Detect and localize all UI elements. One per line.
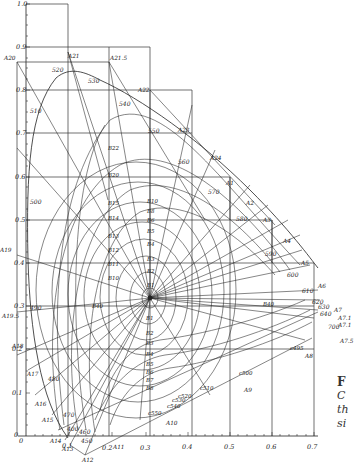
- sat-B6-lower: B6: [145, 369, 154, 375]
- hue-A13: A13: [61, 446, 74, 452]
- hue-A9: A9: [243, 387, 252, 393]
- sat-B22: B22: [107, 145, 120, 151]
- sat-B12: B12: [107, 247, 120, 253]
- wavelength-580: 580: [236, 215, 248, 222]
- y-tick-0.5: 0.5: [15, 216, 25, 224]
- wavelength-520: 520: [52, 66, 64, 73]
- wavelength-540: 540: [119, 100, 131, 107]
- hue-A7: A7: [333, 307, 342, 313]
- sat-B40: B40: [91, 303, 104, 309]
- sat-B20: B20: [107, 172, 120, 178]
- sat-B7-lower: B7: [145, 377, 154, 383]
- hue-A17: A17: [26, 371, 39, 377]
- sat-B4-right: B4: [146, 241, 155, 247]
- hue-A5: A5: [300, 260, 309, 266]
- wavelength-600: 600: [287, 271, 299, 278]
- y-tick-0.6: 0.6: [15, 173, 25, 181]
- caption-fragment-2: C: [337, 389, 357, 403]
- c495-label: c495: [290, 345, 304, 351]
- hue-A7.1: A7.1: [337, 315, 351, 321]
- wavelength-500: 500: [30, 198, 42, 205]
- wavelength-400: 400: [66, 425, 79, 432]
- wavelength-460: 460: [78, 428, 91, 435]
- wavelength-560: 560: [178, 158, 190, 165]
- wavelength-490: 490: [29, 304, 42, 311]
- sat-B40-right: B40: [262, 301, 275, 307]
- saturation-labels: B22 B20 B15 B14 B13 B12 B11 B10 B10 B8 B…: [91, 145, 275, 391]
- wavelength-530: 530: [88, 77, 100, 84]
- y-tick-0.3: 0.3: [14, 302, 24, 310]
- x-tick-0: 0: [19, 437, 23, 445]
- hue-A4: A4: [282, 238, 291, 244]
- y-tick-0.4: 0.4: [14, 259, 24, 267]
- hue-A24: A24: [209, 155, 222, 161]
- caption-fragment-3: th: [337, 403, 357, 417]
- sat-B5-lower: B5: [145, 361, 154, 367]
- wavelength-labels: 520 530 540 550 560 570 580 590 600 610 …: [29, 66, 340, 444]
- sat-B5-right: B5: [146, 228, 155, 234]
- sat-B3-lower: B3: [145, 340, 154, 346]
- wavelength-640: 640: [320, 310, 332, 317]
- hue-A23: A23: [177, 127, 190, 133]
- hue-A22: A22: [137, 87, 150, 93]
- hue-A14: A14: [49, 438, 62, 444]
- wavelength-570: 570: [208, 188, 220, 195]
- x-tick-0.5: 0.5: [224, 443, 234, 451]
- chromaticity-diagram: 1.0 0.9 0.8 0.7 0.6 0.5 0.4 0.3 0.2 0.1 …: [0, 0, 357, 462]
- hue-A15: A15: [41, 417, 54, 423]
- sat-B3-right: B3: [146, 256, 155, 262]
- y-tick-0: 0: [14, 431, 18, 439]
- hue-A1: A1: [225, 180, 234, 186]
- x-tick-0.6: 0.6: [266, 443, 276, 451]
- x-tick-0.2: 0.2: [102, 444, 112, 452]
- hue-A20: A20: [3, 55, 16, 61]
- c540-label: c540: [167, 403, 181, 409]
- sat-B2-lower: B2: [145, 330, 154, 336]
- white-point-marker: [148, 296, 153, 301]
- sat-B8-lower: B8: [145, 385, 154, 391]
- sat-B14: B14: [107, 215, 120, 221]
- hue-A10: A10: [165, 420, 178, 426]
- sat-B1-right: B1: [146, 282, 155, 288]
- y-tick-1.0: 1.0: [17, 0, 27, 8]
- y-tick-0.9: 0.9: [16, 43, 26, 51]
- wavelength-610: 610: [302, 287, 314, 294]
- y-axis-labels: 1.0 0.9 0.8 0.7 0.6 0.5 0.4 0.3 0.2 0.1 …: [12, 0, 27, 439]
- hue-A21: A21: [67, 53, 80, 59]
- hue-A19.5: A19.5: [1, 313, 19, 319]
- figure-caption: F C th si: [337, 375, 357, 431]
- c510-label: c510: [200, 385, 214, 391]
- sat-B4-lower: B4: [145, 351, 154, 357]
- sat-B10: B10: [107, 275, 120, 281]
- hue-A11: A11: [112, 444, 125, 450]
- c500-label: c500: [239, 370, 253, 376]
- wavelength-480: 480: [47, 375, 60, 382]
- y-tick-0.1: 0.1: [12, 389, 22, 397]
- wavelength-550: 550: [148, 127, 160, 134]
- x-tick-0.7: 0.7: [307, 443, 318, 451]
- wavelength-450: 450: [80, 437, 93, 444]
- hue-A3: A3: [262, 217, 271, 223]
- y-tick-0.7: 0.7: [16, 129, 27, 137]
- hue-A8: A8: [304, 353, 313, 359]
- sat-B2-right: B2: [146, 268, 155, 274]
- hue-A7.1b: A7.1: [337, 322, 351, 328]
- caption-fragment-1: F: [337, 375, 357, 389]
- sat-B13: B13: [107, 233, 120, 239]
- hue-A18: A18: [11, 343, 24, 349]
- hue-A7.5: A7.5: [339, 338, 354, 344]
- sat-B15: B15: [107, 200, 120, 206]
- hue-A19: A19: [0, 247, 12, 253]
- wavelength-590: 590: [265, 250, 277, 257]
- wavelength-630: 630: [318, 303, 330, 310]
- sat-B6-right: B6: [146, 217, 155, 223]
- hue-A12: A12: [81, 457, 94, 462]
- x-tick-0.3: 0.3: [140, 444, 150, 452]
- c550-label: c550: [148, 410, 162, 416]
- y-tick-0.8: 0.8: [16, 86, 26, 94]
- wavelength-510: 510: [30, 107, 42, 114]
- hue-A21.5: A21.5: [109, 55, 127, 61]
- sat-B8-right: B8: [146, 208, 155, 214]
- hue-A16: A16: [34, 401, 47, 407]
- hue-A6: A6: [317, 283, 326, 289]
